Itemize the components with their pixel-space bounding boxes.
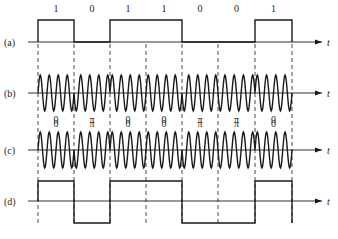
phase-label: π [89, 114, 94, 125]
phase-label: π [197, 114, 202, 125]
phase-label: 0 [54, 114, 59, 125]
arrow-icon [315, 91, 322, 96]
axis-label-t: t [327, 37, 330, 48]
row-label-d: (d) [4, 196, 16, 208]
bit-label: 0 [198, 3, 203, 14]
phase-label: 0 [162, 114, 167, 125]
bit-label: 1 [162, 3, 167, 14]
arrow-icon [315, 40, 322, 45]
axis-label-t: t [327, 145, 330, 156]
phase-label: 0 [271, 114, 276, 125]
phase-label: 0 [126, 114, 131, 125]
bit-label: 1 [271, 3, 276, 14]
bit-label: 0 [90, 3, 95, 14]
axis-label-t: t [327, 196, 330, 207]
bit-label: 0 [234, 3, 239, 14]
phase-label: π [234, 114, 239, 125]
row-label-a: (a) [4, 37, 15, 49]
signal-d-bipolar [38, 181, 292, 223]
bit-label: 1 [54, 3, 59, 14]
signal-a-binary [38, 20, 292, 42]
arrow-icon [315, 199, 322, 204]
row-label-c: (c) [4, 145, 15, 157]
row-label-b: (b) [4, 88, 16, 100]
signal-diagram: t(a)t(b)t(c)t(d)10110010π00ππ00π00ππ0 [0, 0, 338, 239]
axis-label-t: t [327, 88, 330, 99]
bit-label: 1 [126, 3, 131, 14]
time-axes [28, 40, 322, 204]
arrow-icon [315, 148, 322, 153]
